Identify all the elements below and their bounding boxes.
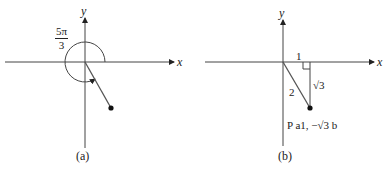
terminal-side-a	[85, 62, 111, 108]
caption-a: (a)	[76, 150, 89, 162]
y-axis-label-a: y	[81, 5, 86, 17]
caption-b: (b)	[278, 150, 292, 162]
point-a	[108, 105, 113, 110]
vertical-leg-label: √3	[313, 80, 325, 91]
angle-numerator: 5π	[55, 26, 68, 39]
right-angle-mark-b	[303, 62, 310, 69]
x-axis-label-b: x	[377, 56, 382, 68]
point-p-b	[307, 105, 312, 110]
x-axis-label-a: x	[177, 56, 182, 68]
panel-a	[5, 18, 174, 148]
horizontal-leg-label: 1	[296, 51, 302, 62]
hypotenuse-label: 2	[289, 87, 295, 98]
angle-label-a: 5π 3	[55, 26, 68, 51]
angle-denominator: 3	[55, 39, 68, 51]
point-p-label: P a1, −√3 b	[287, 120, 337, 131]
y-axis-label-b: y	[279, 7, 284, 19]
